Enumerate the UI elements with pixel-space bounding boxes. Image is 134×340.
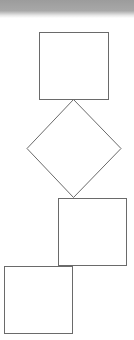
diagram-canvas (0, 0, 134, 340)
square-3 (5, 267, 73, 334)
square-1 (40, 33, 109, 100)
square-2 (59, 199, 127, 266)
diamond-1 (27, 100, 121, 198)
